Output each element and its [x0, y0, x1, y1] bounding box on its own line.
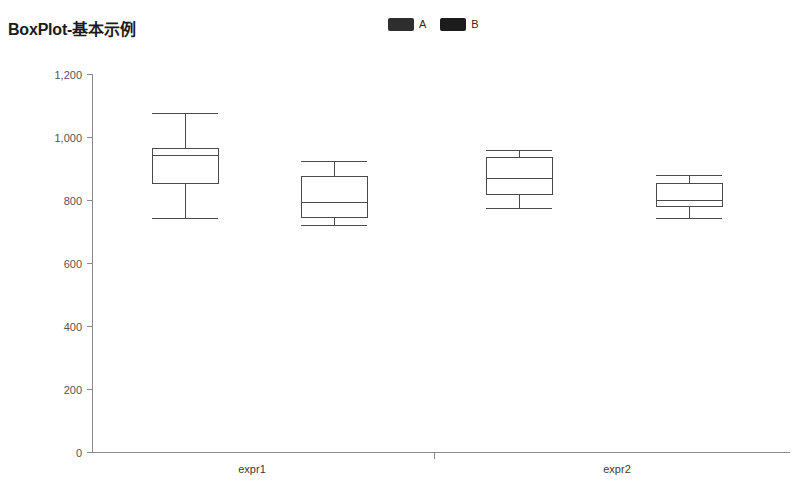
plot-area: 02004006008001,0001,200 expr1expr2	[0, 0, 802, 501]
y-tick-label: 200	[64, 384, 82, 396]
y-tick-label: 0	[76, 447, 82, 459]
box-plot-B-expr1[interactable]	[301, 162, 368, 226]
chart-container: BoxPlot-基本示例 A B 02004006008001,0001,200…	[0, 0, 802, 501]
y-tick-label: 1,000	[54, 132, 82, 144]
y-tick-label: 800	[64, 195, 82, 207]
box-body[interactable]	[153, 149, 219, 184]
x-axis: expr1expr2	[92, 453, 790, 476]
box-plot-B-expr2[interactable]	[656, 176, 723, 219]
box-body[interactable]	[302, 177, 368, 218]
box-body[interactable]	[487, 158, 553, 195]
box-plots	[152, 114, 723, 226]
y-axis: 02004006008001,0001,200	[54, 69, 92, 459]
y-tick-label: 1,200	[54, 69, 82, 81]
box-plot-A-expr2[interactable]	[486, 151, 553, 209]
x-tick-label-expr2: expr2	[603, 463, 631, 475]
box-plot-A-expr1[interactable]	[152, 114, 219, 219]
y-tick-label: 600	[64, 258, 82, 270]
box-body[interactable]	[657, 184, 723, 207]
y-tick-label: 400	[64, 321, 82, 333]
x-tick-label-expr1: expr1	[238, 463, 266, 475]
